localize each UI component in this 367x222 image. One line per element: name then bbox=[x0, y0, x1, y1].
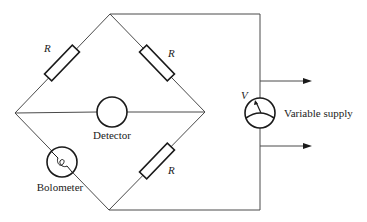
voltage-label: V bbox=[241, 89, 249, 101]
resistor-bottom-right-label: R bbox=[167, 164, 175, 176]
output-arrow-bottom bbox=[260, 143, 312, 149]
bolometer-label: Bolometer bbox=[37, 181, 84, 193]
resistor-top-left-label: R bbox=[43, 42, 51, 54]
bolometer-icon bbox=[47, 147, 77, 177]
meter-icon bbox=[245, 98, 275, 128]
supply-label: Variable supply bbox=[284, 107, 353, 119]
resistor-top-right-label: R bbox=[167, 47, 175, 59]
bridge-circuit-diagram: R R R Detector Bolometer V Variable supp… bbox=[0, 0, 367, 222]
output-arrow-top bbox=[260, 78, 312, 84]
detector-icon bbox=[97, 97, 127, 127]
detector-label: Detector bbox=[93, 129, 131, 141]
